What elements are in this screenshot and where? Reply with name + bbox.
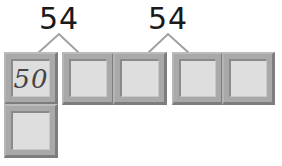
connector-left (38, 34, 79, 53)
answer-box-4[interactable] (113, 52, 167, 105)
answer-box-5[interactable] (172, 52, 224, 105)
answer-box-6[interactable] (222, 52, 275, 105)
connector-right (148, 34, 189, 53)
handwritten-value: 50 (13, 64, 48, 94)
answer-box-1[interactable]: 50 (4, 52, 58, 105)
answer-box-2[interactable] (4, 104, 58, 158)
answer-box-3[interactable] (62, 52, 115, 105)
